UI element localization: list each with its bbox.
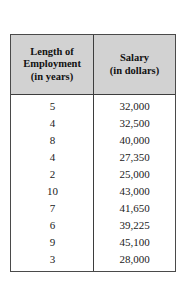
column-header-line: Salary (120, 52, 149, 65)
cell-salary: 39,225 (94, 217, 175, 234)
table-row: 9 45,100 (11, 234, 175, 251)
cell-length: 8 (11, 132, 94, 149)
table-row: 2 25,000 (11, 166, 175, 183)
table-row: 10 43,000 (11, 183, 175, 200)
cell-length: 9 (11, 234, 94, 251)
cell-salary: 27,350 (94, 149, 175, 166)
cell-salary: 32,500 (94, 115, 175, 132)
table-header-row: Length of Employment (in years) Salary (… (11, 35, 175, 95)
table-row: 4 27,350 (11, 149, 175, 166)
cell-length: 4 (11, 115, 94, 132)
cell-salary: 40,000 (94, 132, 175, 149)
cell-length: 4 (11, 149, 94, 166)
cell-salary: 41,650 (94, 200, 175, 217)
column-header-line: Length of (30, 46, 73, 59)
column-header-line: (in dollars) (110, 65, 159, 78)
cell-length: 10 (11, 183, 94, 200)
cell-length: 3 (11, 251, 94, 268)
table-row: 3 28,000 (11, 251, 175, 268)
column-header-salary: Salary (in dollars) (94, 35, 175, 94)
cell-length: 2 (11, 166, 94, 183)
cell-salary: 43,000 (94, 183, 175, 200)
table-row: 7 41,650 (11, 200, 175, 217)
column-header-line: (in years) (31, 71, 73, 84)
table-row: 8 40,000 (11, 132, 175, 149)
table-figure: Length of Employment (in years) Salary (… (0, 0, 186, 283)
cell-salary: 45,100 (94, 234, 175, 251)
table-row: 5 32,000 (11, 98, 175, 115)
table-row: 4 32,500 (11, 115, 175, 132)
cell-salary: 32,000 (94, 98, 175, 115)
table-body: 5 32,000 4 32,500 8 40,000 4 27,350 2 (11, 95, 175, 271)
cell-length: 6 (11, 217, 94, 234)
cell-salary: 25,000 (94, 166, 175, 183)
column-header-line: Employment (23, 58, 81, 71)
cell-length: 7 (11, 200, 94, 217)
cell-length: 5 (11, 98, 94, 115)
table-rows: 5 32,000 4 32,500 8 40,000 4 27,350 2 (11, 95, 175, 268)
cell-salary: 28,000 (94, 251, 175, 268)
employment-salary-table: Length of Employment (in years) Salary (… (10, 34, 176, 272)
table-row: 6 39,225 (11, 217, 175, 234)
column-header-length-of-employment: Length of Employment (in years) (11, 35, 94, 94)
